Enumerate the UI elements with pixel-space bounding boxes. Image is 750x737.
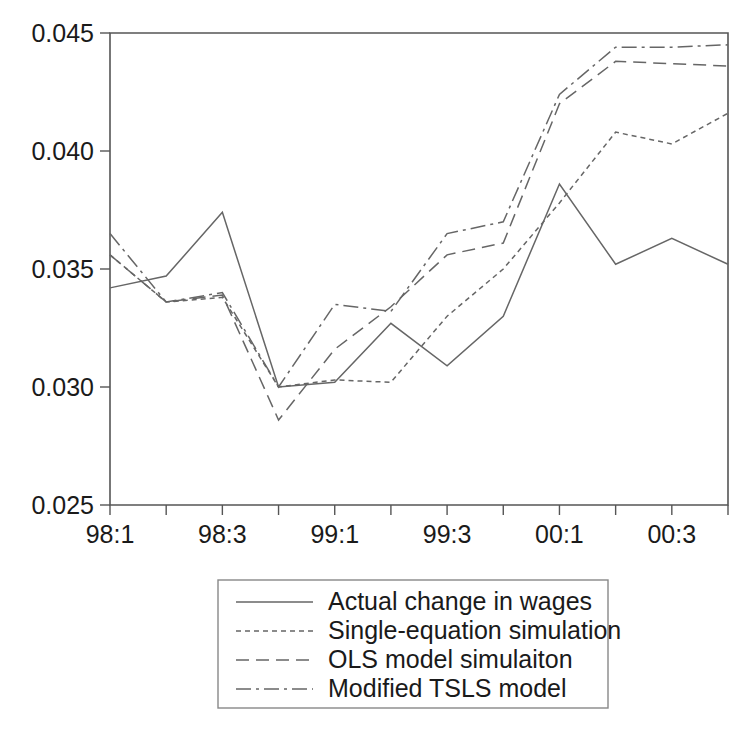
y-tick-label: 0.040 — [31, 137, 94, 165]
chart-svg: 0.0250.0300.0350.0400.045 98:198:399:199… — [0, 0, 750, 737]
y-tick-label: 0.030 — [31, 373, 94, 401]
legend-entry-label: OLS model simulaiton — [328, 645, 573, 673]
series-line-0 — [110, 184, 728, 387]
x-tick-label: 00:1 — [535, 520, 584, 548]
series-line-1 — [110, 113, 728, 387]
series-line-3 — [110, 45, 728, 387]
legend-entry-label: Modified TSLS model — [328, 674, 567, 702]
series-line-2 — [110, 61, 728, 420]
x-tick-label: 98:3 — [198, 520, 247, 548]
series-group — [110, 45, 728, 420]
x-tick-label: 00:3 — [647, 520, 696, 548]
y-tick-label: 0.035 — [31, 255, 94, 283]
x-tick-label: 99:1 — [310, 520, 359, 548]
x-tick-label: 98:1 — [86, 520, 135, 548]
y-axis-ticks: 0.0250.0300.0350.0400.045 — [31, 19, 110, 519]
x-axis-ticks: 98:198:399:199:300:100:3 — [86, 505, 728, 548]
legend-entry-label: Actual change in wages — [328, 587, 592, 615]
legend-entry-label: Single-equation simulation — [328, 616, 621, 644]
y-tick-label: 0.045 — [31, 19, 94, 47]
line-chart: 0.0250.0300.0350.0400.045 98:198:399:199… — [0, 0, 750, 737]
y-tick-label: 0.025 — [31, 491, 94, 519]
chart-legend: Actual change in wagesSingle-equation si… — [218, 580, 621, 708]
plot-frame — [110, 33, 728, 505]
x-tick-label: 99:3 — [423, 520, 472, 548]
